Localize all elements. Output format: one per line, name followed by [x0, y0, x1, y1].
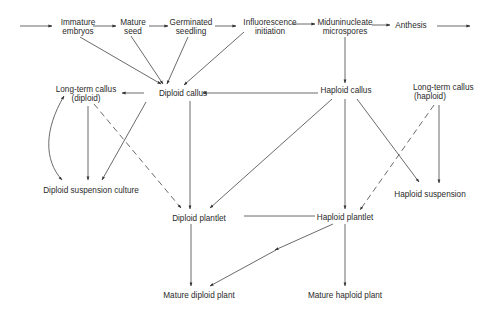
node-germinated-seedling: Germinated seedling — [170, 18, 213, 36]
svg-text:seed: seed — [124, 27, 142, 36]
node-mature-seed: Mature seed — [120, 18, 146, 36]
node-mature-diploid-plant: Mature diploid plant — [163, 291, 235, 300]
node-diploid-suspension-culture: Diploid suspension culture — [43, 186, 139, 195]
svg-text:Anthesis: Anthesis — [395, 21, 426, 30]
svg-text:Diploid callus: Diploid callus — [159, 89, 207, 98]
node-haploid-plantlet: Haploid plantlet — [317, 213, 374, 222]
node-immature-embryos: Immature embryos — [61, 18, 96, 36]
svg-text:Mature diploid plant: Mature diploid plant — [163, 291, 235, 300]
svg-text:embryos: embryos — [62, 27, 93, 36]
svg-text:Diploid plantlet: Diploid plantlet — [172, 214, 226, 223]
node-anthesis: Anthesis — [395, 21, 426, 30]
arrow-seedling-to-diploid-callus — [167, 37, 188, 84]
node-miduninucleate-microspores: Miduninucleate microspores — [317, 18, 373, 36]
svg-text:initiation: initiation — [255, 27, 285, 36]
svg-text:(diploid): (diploid) — [71, 94, 100, 103]
node-diploid-plantlet: Diploid plantlet — [172, 214, 226, 223]
arrow-curved-long-term-diploid-suspension — [49, 96, 64, 180]
svg-text:Haploid suspension: Haploid suspension — [394, 190, 466, 199]
svg-text:Haploid callus: Haploid callus — [321, 86, 372, 95]
svg-text:Germinated: Germinated — [170, 18, 213, 27]
arrow-embryos-to-diploid-callus — [80, 37, 161, 84]
svg-text:Mature: Mature — [120, 18, 146, 27]
node-haploid-callus: Haploid callus — [321, 86, 372, 95]
svg-text:Miduninucleate: Miduninucleate — [317, 18, 373, 27]
svg-text:Haploid plantlet: Haploid plantlet — [317, 213, 374, 222]
arrow-influorescence-to-diploid-callus — [184, 32, 244, 85]
svg-text:Diploid suspension culture: Diploid suspension culture — [43, 186, 139, 195]
arrow-haploid-callus-to-haploid-suspension — [357, 99, 419, 182]
svg-text:microspores: microspores — [323, 27, 368, 36]
svg-text:seedling: seedling — [176, 27, 207, 36]
flow-diagram: Immature embryos Mature seed Germinated … — [0, 0, 496, 316]
node-haploid-suspension: Haploid suspension — [394, 190, 466, 199]
svg-text:(haploid): (haploid) — [414, 92, 446, 101]
arrow-diploid-callus-to-suspension — [102, 102, 146, 180]
node-long-term-callus-haploid: Long-term callus (haploid) — [413, 83, 474, 101]
arrow-seed-to-diploid-callus — [131, 36, 163, 84]
arrows-to-diploid-callus — [80, 32, 244, 85]
svg-text:Long-term callus: Long-term callus — [413, 83, 474, 92]
arrow-haploid-callus-to-diploid-plantlet — [210, 99, 332, 208]
arrow-haploid-plantlet-to-mature-diploid — [210, 224, 333, 286]
node-diploid-callus: Diploid callus — [159, 89, 207, 98]
svg-text:Immature: Immature — [61, 18, 96, 27]
node-mature-haploid-plant: Mature haploid plant — [308, 291, 383, 300]
node-long-term-callus-diploid: Long-term callus (diploid) — [56, 85, 117, 103]
node-influorescence-initiation: Influorescence initiation — [243, 18, 297, 36]
svg-text:Long-term callus: Long-term callus — [56, 85, 117, 94]
svg-text:Mature haploid plant: Mature haploid plant — [308, 291, 383, 300]
svg-text:Influorescence: Influorescence — [243, 18, 297, 27]
